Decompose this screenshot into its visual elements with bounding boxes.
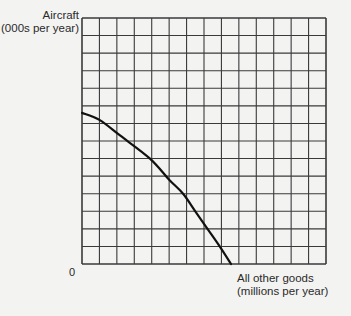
origin-label: 0	[69, 266, 75, 278]
x-axis-label-line1: All other goods	[237, 272, 328, 285]
y-axis-label-line1: Aircraft	[1, 9, 79, 22]
ppf-chart	[0, 0, 351, 316]
y-axis-label: Aircraft (000s per year)	[1, 9, 79, 35]
ppf-curve	[82, 113, 231, 264]
y-axis-label-line2: (000s per year)	[1, 22, 79, 35]
x-axis-label: All other goods (millions per year)	[237, 272, 328, 298]
x-axis-label-line2: (millions per year)	[237, 285, 328, 298]
chart-grid	[82, 18, 326, 264]
